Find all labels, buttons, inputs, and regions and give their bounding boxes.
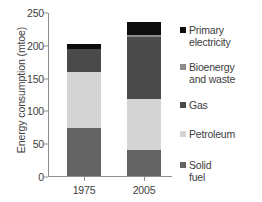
- bar-segment-2005-solid-fuel[interactable]: [127, 150, 161, 176]
- x-tick-mark-2005: [144, 177, 145, 181]
- legend-label-gas: Gas: [189, 99, 208, 111]
- legend-label-primary-electricity: Primary electricity: [189, 24, 231, 48]
- x-axis-label-2005: 2005: [114, 184, 174, 196]
- y-axis-title: Energy consumption (mtoe): [15, 5, 27, 175]
- legend-item-primary-electricity[interactable]: Primary electricity: [180, 24, 231, 48]
- bar-segment-2005-petroleum[interactable]: [127, 99, 161, 150]
- y-tick-mark-150: [44, 78, 48, 79]
- y-tick-mark-100: [44, 111, 48, 112]
- y-tick-label-50: 50: [33, 138, 44, 150]
- y-tick-mark-250: [44, 13, 48, 14]
- legend-label-bioenergy-and-waste: Bioenergy and waste: [189, 61, 235, 85]
- bar-2005[interactable]: [127, 22, 161, 176]
- legend-swatch-gas: [180, 102, 186, 108]
- y-tick-mark-200: [44, 45, 48, 46]
- y-axis-line: [48, 13, 49, 177]
- bar-segment-1975-solid-fuel[interactable]: [67, 128, 101, 176]
- bar-segment-2005-bioenergy-and-waste[interactable]: [127, 35, 161, 37]
- stacked-bar-chart: Energy consumption (mtoe) 05010015020025…: [0, 0, 262, 202]
- x-tick-mark-1975: [84, 177, 85, 181]
- legend-item-bioenergy-and-waste[interactable]: Bioenergy and waste: [180, 61, 235, 85]
- legend-swatch-bioenergy-and-waste: [180, 64, 186, 70]
- x-axis-line: [48, 176, 172, 177]
- legend-label-solid-fuel: Solid fuel: [189, 159, 211, 183]
- bar-segment-1975-gas[interactable]: [67, 49, 101, 73]
- bar-segment-1975-petroleum[interactable]: [67, 72, 101, 128]
- y-tick-label-250: 250: [27, 7, 44, 19]
- legend-label-petroleum: Petroleum: [189, 128, 235, 140]
- y-tick-mark-0: [44, 177, 48, 178]
- legend-swatch-solid-fuel: [180, 162, 186, 168]
- legend-swatch-primary-electricity: [180, 27, 186, 33]
- legend-item-gas[interactable]: Gas: [180, 99, 208, 111]
- legend-item-solid-fuel[interactable]: Solid fuel: [180, 159, 211, 183]
- y-tick-mark-50: [44, 144, 48, 145]
- bar-1975[interactable]: [67, 44, 101, 177]
- y-tick-label-150: 150: [27, 73, 44, 85]
- bar-segment-2005-primary-electricity[interactable]: [127, 22, 161, 35]
- bar-segment-2005-gas[interactable]: [127, 37, 161, 99]
- legend-item-petroleum[interactable]: Petroleum: [180, 128, 235, 140]
- bar-segment-1975-primary-electricity[interactable]: [67, 44, 101, 49]
- y-tick-label-100: 100: [27, 105, 44, 117]
- plot-area: 050100150200250 19752005: [48, 13, 172, 177]
- y-tick-label-200: 200: [27, 40, 44, 52]
- x-axis-label-1975: 1975: [54, 184, 114, 196]
- legend-swatch-petroleum: [180, 131, 186, 137]
